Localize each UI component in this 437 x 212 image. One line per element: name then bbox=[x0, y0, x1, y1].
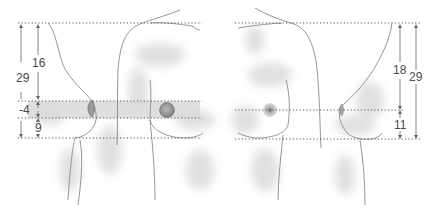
left-total-label: 29 bbox=[15, 72, 30, 84]
left-upper-label: 16 bbox=[31, 57, 46, 69]
left-lower-label: 9 bbox=[34, 122, 43, 134]
diagram-canvas: 29 16 -4 9 18 29 11 bbox=[0, 0, 437, 212]
right-upper-label: 18 bbox=[392, 64, 407, 76]
diagram-svg bbox=[0, 0, 437, 212]
right-lower-label: 11 bbox=[393, 119, 407, 131]
right-total-label: 29 bbox=[408, 71, 423, 83]
left-frontal-areola bbox=[160, 103, 175, 118]
left-band-label: -4 bbox=[18, 104, 31, 116]
